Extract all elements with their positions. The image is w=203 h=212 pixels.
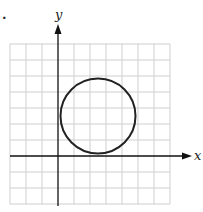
circle-shape [61,79,136,154]
axes [10,30,186,206]
grid [10,44,170,204]
y-axis-arrow-icon [55,24,62,34]
y-axis-label: y [55,8,62,21]
x-axis-arrow-icon [182,153,192,160]
x-axis-label: x [194,149,201,162]
coordinate-plane [0,0,203,212]
